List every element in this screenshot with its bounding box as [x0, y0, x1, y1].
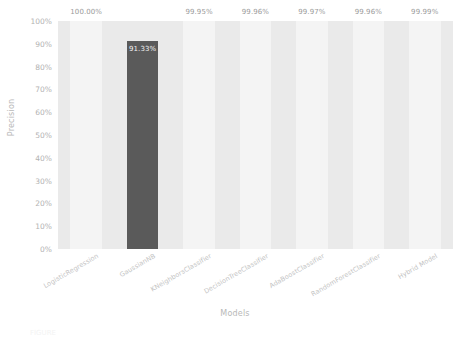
x-axis-label: Models — [0, 309, 470, 318]
x-axis-tick-label: Hybrid Model — [396, 252, 438, 281]
y-axis-tick-label: 30% — [35, 176, 52, 185]
bar[interactable]: 99.99% — [409, 21, 441, 249]
y-axis-tick-label: 60% — [35, 108, 52, 117]
y-axis-tick-label: 20% — [35, 199, 52, 208]
y-axis-tick-label: 90% — [35, 39, 52, 48]
bar[interactable]: 91.33% — [127, 41, 159, 249]
bar-slot: 99.99% — [397, 21, 453, 249]
bar-slot: 99.95% — [171, 21, 227, 249]
y-axis-tick-label: 40% — [35, 153, 52, 162]
figure-caption: FIGURE — [30, 329, 56, 337]
bar-value-label: 99.97% — [298, 8, 325, 16]
bar-value-label: 99.95% — [185, 8, 212, 16]
y-axis-tick-label: 70% — [35, 85, 52, 94]
bar-value-label: 100.00% — [70, 8, 102, 16]
y-axis-tick-label: 80% — [35, 62, 52, 71]
bar-value-label: 91.33% — [129, 45, 156, 53]
bar-value-label: 99.96% — [355, 8, 382, 16]
bar-slot: 100.00% — [58, 21, 114, 249]
x-axis-tick-label: AdaBoostClassifier — [268, 252, 326, 290]
bar-series: 100.00%91.33%99.95%99.96%99.97%99.96%99.… — [58, 21, 453, 249]
x-axis-tick-label: LogisticRegression — [42, 252, 100, 290]
bar-value-label: 99.99% — [411, 8, 438, 16]
x-axis-tick-label: GaussianNB — [118, 252, 157, 279]
y-axis-label: Precision — [7, 88, 16, 148]
plot-area: 100.00%91.33%99.95%99.96%99.97%99.96%99.… — [58, 21, 453, 249]
bar-slot: 99.96% — [227, 21, 283, 249]
bar-slot: 99.97% — [284, 21, 340, 249]
bar[interactable]: 99.96% — [353, 21, 385, 249]
y-axis-tick-label: 0% — [40, 245, 52, 254]
bar-value-label: 99.96% — [242, 8, 269, 16]
y-axis-tick-label: 100% — [31, 17, 52, 26]
bar[interactable]: 99.96% — [240, 21, 272, 249]
y-axis-tick-label: 10% — [35, 222, 52, 231]
x-axis-ticks: LogisticRegressionGaussianNBKNeighborsCl… — [58, 249, 453, 309]
bar[interactable]: 99.95% — [183, 21, 215, 249]
y-axis-tick-label: 50% — [35, 131, 52, 140]
figure-canvas: 0%10%20%30%40%50%60%70%80%90%100% Precis… — [0, 0, 470, 337]
bar-slot: 99.96% — [340, 21, 396, 249]
bar-slot: 91.33% — [114, 21, 170, 249]
bar[interactable]: 99.97% — [296, 21, 328, 249]
bar[interactable]: 100.00% — [70, 21, 102, 249]
